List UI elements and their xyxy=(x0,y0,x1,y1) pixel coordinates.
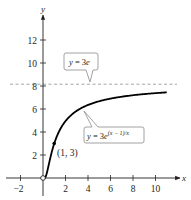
x-tick-label: 10 xyxy=(151,184,161,194)
curve-callout: y = 3e(x − 1)/x xyxy=(84,111,144,143)
x-tick-label: 2 xyxy=(63,184,68,194)
svg-text:y = 3e: y = 3e xyxy=(68,57,90,67)
point-label: (1, 3) xyxy=(57,148,78,159)
y-axis-label: y xyxy=(40,4,45,14)
x-tick-labels: −2 2 4 6 8 10 xyxy=(13,184,160,194)
x-tick-label: 4 xyxy=(86,184,91,194)
y-tick-labels: 2 4 6 8 10 12 xyxy=(28,36,38,161)
x-tick-label: 6 xyxy=(108,184,113,194)
point-1-3 xyxy=(52,142,56,146)
x-axis-label: x xyxy=(181,173,186,183)
x-tick-label: −2 xyxy=(13,184,23,194)
y-tick-label: 10 xyxy=(28,59,38,69)
origin-open-point xyxy=(41,176,46,181)
asymptote-callout: y = 3e xyxy=(64,53,98,82)
y-tick-label: 4 xyxy=(32,128,37,138)
x-tick-label: 8 xyxy=(131,184,136,194)
chart: −2 2 4 6 8 10 2 4 6 8 10 12 y x (1, 3) y… xyxy=(0,0,191,200)
y-tick-label: 12 xyxy=(28,36,38,46)
y-tick-label: 8 xyxy=(32,82,37,92)
y-tick-label: 6 xyxy=(32,105,37,115)
y-tick-label: 2 xyxy=(32,151,37,161)
